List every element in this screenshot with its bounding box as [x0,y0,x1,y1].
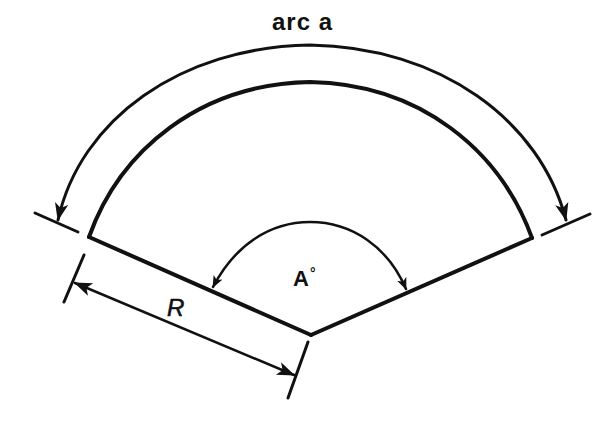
radius-right-extension [288,342,308,398]
radius-label: R [167,296,184,320]
left-extension-tick [35,213,78,232]
sector-outline [89,82,532,335]
angle-label: A° [293,268,316,290]
sector-diagram [0,0,614,427]
radius-dimension [64,255,308,398]
arc-length-label: arc a [272,10,333,34]
radius-left-extension [64,255,84,302]
arc-length-dimension-line [58,45,566,220]
sector-left-radius [89,237,311,335]
degree-symbol: ° [310,265,316,281]
arc-length-dimension [35,45,590,235]
sector-right-radius [311,238,532,335]
radius-dimension-line [75,283,294,375]
sector-arc [89,82,532,238]
angle-symbol: A [293,266,309,291]
